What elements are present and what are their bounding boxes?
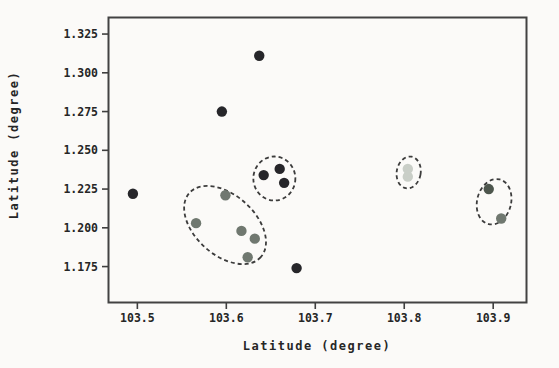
data-point-dark-gray-points — [484, 184, 494, 194]
x-axis-label: Latitude (degree) — [243, 339, 391, 353]
plot-area: 103.5103.6103.7103.8103.91.1751.2001.225… — [0, 0, 559, 368]
cluster-ellipse — [472, 175, 516, 228]
data-point-light-gray-points — [403, 171, 413, 181]
y-axis-label: Latitude (degree) — [7, 71, 21, 219]
data-point-gray-points — [236, 226, 246, 236]
x-tick-label: 103.6 — [209, 311, 244, 325]
x-tick-label: 103.7 — [298, 311, 333, 325]
data-point-gray-points — [242, 252, 252, 262]
data-point-black-points — [274, 164, 284, 174]
y-tick-label: 1.200 — [63, 221, 98, 235]
data-point-black-points — [291, 263, 301, 273]
plot-border — [109, 18, 527, 303]
x-tick-label: 103.5 — [120, 311, 155, 325]
data-point-gray-points — [220, 190, 230, 200]
y-tick-label: 1.175 — [63, 260, 98, 274]
data-point-gray-points — [250, 233, 260, 243]
data-point-black-points — [128, 189, 138, 199]
y-tick-label: 1.300 — [63, 66, 98, 80]
data-point-black-points — [254, 51, 264, 61]
y-tick-label: 1.225 — [63, 182, 98, 196]
data-point-black-points — [258, 170, 268, 180]
data-point-black-points — [279, 178, 289, 188]
data-point-gray-points — [496, 213, 506, 223]
y-tick-label: 1.275 — [63, 105, 98, 119]
data-point-black-points — [217, 106, 227, 116]
cluster-ellipse — [169, 171, 280, 280]
x-tick-label: 103.8 — [387, 311, 422, 325]
x-tick-label: 103.9 — [476, 311, 511, 325]
cluster-ellipse — [253, 157, 295, 201]
data-point-gray-points — [191, 218, 201, 228]
y-tick-label: 1.250 — [63, 143, 98, 157]
y-tick-label: 1.325 — [63, 27, 98, 41]
scatter-figure: 103.5103.6103.7103.8103.91.1751.2001.225… — [0, 0, 559, 368]
